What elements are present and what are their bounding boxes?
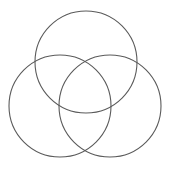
venn-diagram [0,0,170,172]
venn-circle-right [59,55,161,157]
